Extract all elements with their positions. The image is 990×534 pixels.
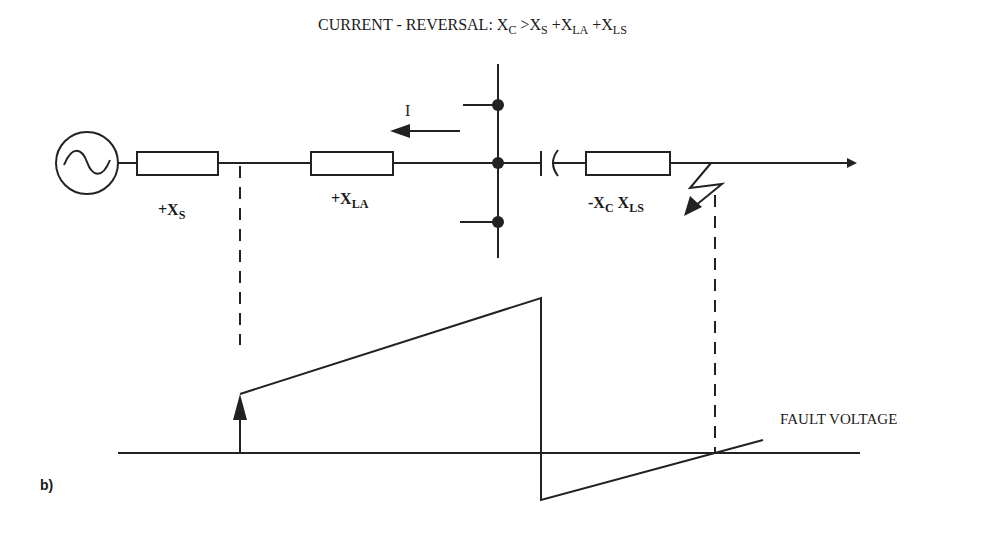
label-xla: +XLA — [331, 190, 369, 211]
ac-source-icon — [56, 132, 118, 194]
figure-label: b) — [40, 477, 53, 493]
current-arrow-icon — [390, 124, 460, 138]
label-xc-xls: -XC XLS — [588, 194, 644, 215]
voltage-profile — [118, 298, 860, 500]
voltage-sawtooth — [240, 298, 763, 500]
transmission-line — [118, 150, 855, 176]
fault-voltage-label: FAULT VOLTAGE — [780, 411, 897, 427]
reactance-xc-xls — [586, 152, 670, 175]
reactance-xs — [137, 152, 218, 175]
voltage-arrow-icon — [233, 394, 247, 420]
bus-bar — [460, 64, 504, 258]
reactance-xla — [311, 152, 393, 175]
label-xs: +XS — [158, 201, 186, 222]
title: CURRENT - REVERSAL: XC >XS +XLA +XLS — [318, 16, 627, 37]
fault-lightning-icon — [684, 163, 722, 216]
current-label: I — [405, 102, 410, 119]
current-reversal-diagram: CURRENT - REVERSAL: XC >XS +XLA +XLS I — [0, 0, 990, 534]
